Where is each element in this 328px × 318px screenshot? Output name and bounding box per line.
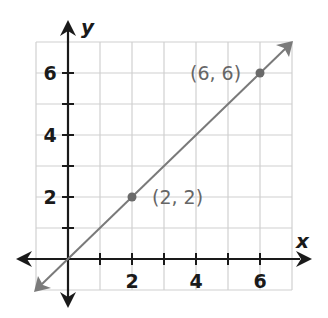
y-tick-label-2: 2 <box>43 186 56 208</box>
point-label-6-6: (6, 6) <box>190 62 241 84</box>
y-axis-label: y <box>81 15 95 39</box>
x-tick-label-4: 4 <box>189 270 202 292</box>
y-tick-label-4: 4 <box>43 124 56 146</box>
point-label-2-2: (2, 2) <box>152 186 203 208</box>
x-axis-label: x <box>295 229 310 253</box>
x-tick-label-6: 6 <box>253 270 266 292</box>
x-tick-label-2: 2 <box>125 270 138 292</box>
y-tick-label-6: 6 <box>43 62 56 84</box>
point-2-2 <box>128 193 137 202</box>
coordinate-plane: 2 4 6 2 4 6 y x (2, 2) (6, 6) <box>0 0 328 318</box>
point-6-6 <box>256 69 265 78</box>
